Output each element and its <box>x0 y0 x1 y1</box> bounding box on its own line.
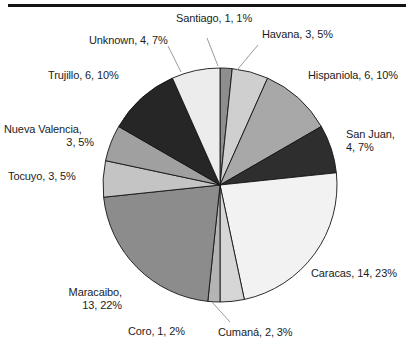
slice-label-nueva-valencia-line1: Nueva Valencia, <box>4 123 94 136</box>
leader-line-unknown <box>168 46 181 72</box>
slice-label-san-juan-line2: 4, 7% <box>346 141 414 154</box>
slice-label-nueva-valencia-line2: 3, 5% <box>4 136 94 149</box>
slice-label-hispaniola: Hispaniola, 6, 10% <box>308 69 414 82</box>
slice-label-santiago: Santiago, 1, 1% <box>168 12 260 25</box>
leader-line-havana <box>237 45 258 70</box>
slice-label-coro: Coro, 1, 2% <box>128 325 208 338</box>
pie-slice-maracaibo <box>104 185 220 301</box>
slice-label-tocuyo: Tocuyo, 3, 5% <box>8 170 112 183</box>
slice-label-havana: Havana, 3, 5% <box>262 28 372 41</box>
slice-label-cumana: Cumaná, 2, 3% <box>218 326 322 339</box>
slice-label-trujillo: Trujillo, 6, 10% <box>48 69 152 82</box>
slice-label-san-juan-line1: San Juan, <box>346 128 414 141</box>
slice-label-unknown: Unknown, 4, 7% <box>89 34 189 47</box>
slice-label-maracaibo-line2: 13, 22% <box>38 299 122 312</box>
pie-slice-group <box>103 68 337 302</box>
slice-label-maracaibo-line1: Maracaibo, <box>38 286 122 299</box>
pie-chart-figure: Santiago, 1, 1% Havana, 3, 5% Hispaniola… <box>0 0 414 351</box>
slice-label-caracas: Caracas, 14, 23% <box>311 267 414 280</box>
leader-line-santiago <box>207 38 218 66</box>
leader-line-coro <box>212 302 230 322</box>
